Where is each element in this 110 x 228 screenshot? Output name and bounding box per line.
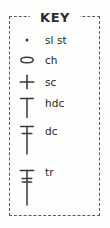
legend-label: sc (45, 77, 56, 88)
symbol-cell (9, 73, 45, 91)
legend-row-hdc: hdc (9, 96, 100, 120)
symbol-cell (9, 52, 45, 68)
legend-label: sl st (45, 35, 67, 46)
legend-label: tr (45, 167, 54, 178)
stitch-key-diagram: KEY sl st ch (0, 0, 110, 228)
legend-label: dc (45, 126, 58, 137)
legend-label: hdc (45, 98, 64, 109)
legend-row-dc: dc (9, 124, 100, 156)
legend-label: ch (45, 55, 58, 66)
symbol-cell (9, 124, 45, 156)
half-double-crochet-tee-symbol (9, 96, 45, 120)
treble-crochet-symbol (9, 159, 45, 207)
legend-row-tr: tr (9, 159, 100, 207)
legend-row-sl-st: sl st (9, 32, 100, 48)
double-crochet-symbol (9, 124, 45, 156)
legend-rows: sl st ch sc (9, 16, 100, 216)
symbol-cell (9, 32, 45, 48)
symbol-cell (9, 96, 45, 120)
symbol-cell (9, 159, 45, 207)
single-crochet-cross-symbol (9, 73, 45, 91)
legend-row-sc: sc (9, 73, 100, 91)
chain-oval-symbol (9, 52, 45, 68)
legend-row-ch: ch (9, 52, 100, 68)
slip-stitch-dot-symbol (9, 32, 45, 48)
